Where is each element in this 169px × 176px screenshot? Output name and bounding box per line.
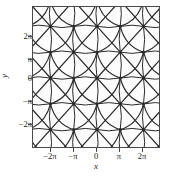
mesh-network	[33, 7, 160, 148]
y-axis-label: y	[0, 74, 9, 78]
x-tick-label: π	[117, 152, 121, 161]
x-tick-label: −π	[68, 152, 77, 161]
x-tick-label: −2π	[43, 152, 56, 161]
x-tick-label: 2π	[138, 152, 147, 161]
x-tick-label: 0	[94, 152, 98, 161]
plot-area	[32, 6, 160, 148]
x-axis-label: x	[94, 161, 98, 171]
chart-figure: 2π π 0 −π −2π −2π −π 0 π 2π y x	[0, 0, 169, 176]
